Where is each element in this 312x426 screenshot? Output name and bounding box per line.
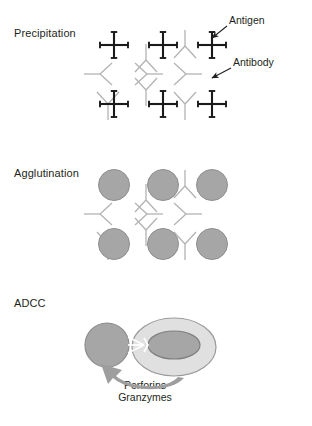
- antigen-cross-bottom-left: [100, 91, 128, 117]
- agglutination-cell-bottom-right: [197, 229, 228, 260]
- antigen-cross-bottom-right: [198, 91, 226, 117]
- agglutination-cell-top-mid: [148, 170, 179, 201]
- antibody-group-precipitation: [84, 30, 202, 120]
- antibody-y: [84, 63, 112, 85]
- antigen-cross-top-mid: [149, 32, 177, 58]
- antigen-cross-bottom-mid: [149, 91, 177, 117]
- antibody-y: [135, 44, 157, 72]
- lgl-nucleus: [148, 331, 200, 359]
- agglutination-cell-bottom-left: [99, 229, 130, 260]
- red-cell: [85, 323, 129, 367]
- agglutination-cell-top-right: [197, 170, 228, 201]
- panel-precipitation: [84, 26, 231, 120]
- callout-arrow-antibody: [212, 68, 231, 78]
- panel-adcc: [85, 318, 216, 389]
- antibody-y: [174, 203, 202, 225]
- antigen-cross-top-right: [198, 32, 226, 58]
- antibody-y: [84, 203, 112, 225]
- agglutination-cell-bottom-mid: [148, 229, 179, 260]
- agglutination-cell-top-left: [99, 170, 130, 201]
- diagram-canvas: Precipitation Agglutination ADCC Antigen…: [0, 0, 312, 426]
- antibody-y: [135, 78, 157, 106]
- antibody-y: [174, 63, 202, 85]
- panel-agglutination: [84, 170, 228, 261]
- diagram-artwork: [0, 0, 312, 426]
- antigen-cross-top-left: [100, 32, 128, 58]
